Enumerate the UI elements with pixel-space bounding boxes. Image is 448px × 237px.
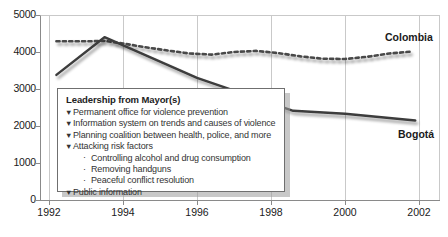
callout-subitem-label: Removing handguns <box>91 164 171 174</box>
dot-bullet-icon: · <box>83 175 86 186</box>
chart-container: 5000 4000 3000 2000 1000 0 1992 1994 199… <box>0 0 448 237</box>
callout-subitem: ·Removing handguns <box>65 164 277 175</box>
callout-title: Leadership from Mayor(s) <box>66 94 277 105</box>
callout-subitem-label: Controlling alcohol and drug consumption <box>91 153 251 163</box>
callout-item: ▼Planning coalition between health, poli… <box>65 130 277 141</box>
triangle-bullet-icon: ▼ <box>65 187 72 198</box>
callout-item-label: Planning coalition between health, polic… <box>73 130 271 140</box>
series-line-colombia <box>56 41 411 59</box>
callout-item-label: Attacking risk factors <box>73 141 153 151</box>
series-label-colombia: Colombia <box>385 31 433 43</box>
callout-list: ▼Permanent office for violence preventio… <box>65 107 277 198</box>
leadership-callout: Leadership from Mayor(s) ▼Permanent offi… <box>57 88 285 192</box>
triangle-bullet-icon: ▼ <box>65 141 72 152</box>
callout-subitem: ·Controlling alcohol and drug consumptio… <box>65 153 277 164</box>
callout-item: ▼Attacking risk factors <box>65 141 277 152</box>
callout-item-label: Permanent office for violence prevention <box>73 107 228 117</box>
triangle-bullet-icon: ▼ <box>65 107 72 118</box>
callout-item-label: Public information <box>73 187 142 197</box>
triangle-bullet-icon: ▼ <box>65 118 72 129</box>
callout-item: ▼Permanent office for violence preventio… <box>65 107 277 118</box>
callout-item: ▼Information system on trends and causes… <box>65 118 277 129</box>
series-label-bogota: Bogotá <box>398 128 434 140</box>
callout-item: ▼Public information <box>65 187 277 198</box>
callout-subitem: ·Peaceful conflict resolution <box>65 175 277 186</box>
callout-item-label: Information system on trends and causes … <box>73 118 275 128</box>
callout-subitem-label: Peaceful conflict resolution <box>91 175 194 185</box>
dot-bullet-icon: · <box>83 152 86 163</box>
dot-bullet-icon: · <box>83 164 86 175</box>
triangle-bullet-icon: ▼ <box>65 130 72 141</box>
